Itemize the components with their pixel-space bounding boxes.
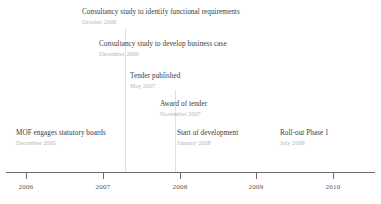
axis-tick-2008 xyxy=(180,172,181,179)
milestone-title: Consultancy study to develop business ca… xyxy=(99,41,227,49)
milestone-date: January 2008 xyxy=(177,140,238,147)
axis-tick-2007 xyxy=(103,172,104,179)
axis-label-2006: 2006 xyxy=(19,183,34,191)
milestone-title: Tender published xyxy=(130,73,180,81)
milestone-title: Award of tender xyxy=(160,101,207,109)
axis-label-2010: 2010 xyxy=(326,183,341,191)
milestone-title: Consultancy study to identify functional… xyxy=(82,9,240,17)
milestone-date: December 2005 xyxy=(16,140,106,147)
axis-label-2007: 2007 xyxy=(96,183,111,191)
axis-label-2009: 2009 xyxy=(249,183,264,191)
milestone: Tender publishedMay 2007 xyxy=(130,73,180,89)
milestone: Award of tenderNovember 2007 xyxy=(160,101,207,117)
milestone: MOF engages statutory boardsDecember 200… xyxy=(16,130,106,146)
milestone-date: October 2006 xyxy=(82,19,240,26)
timeline-axis-line xyxy=(6,172,375,173)
axis-label-2008: 2008 xyxy=(173,183,188,191)
milestone-title: Start of development xyxy=(177,130,238,138)
axis-tick-2006 xyxy=(26,172,27,179)
milestone-date: May 2007 xyxy=(130,83,180,90)
milestone-title: MOF engages statutory boards xyxy=(16,130,106,138)
axis-tick-2010 xyxy=(333,172,334,179)
milestone-date: November 2007 xyxy=(160,111,207,118)
milestone: Roll-out Phase 1July 2009 xyxy=(280,130,329,146)
milestone: Consultancy study to develop business ca… xyxy=(99,41,227,57)
milestone-date: July 2009 xyxy=(280,140,329,147)
timeline-figure: Consultancy study to identify functional… xyxy=(0,0,381,204)
axis-tick-2009 xyxy=(256,172,257,179)
milestone: Consultancy study to identify functional… xyxy=(82,9,240,25)
milestone-date: December 2006 xyxy=(99,51,227,58)
milestone-title: Roll-out Phase 1 xyxy=(280,130,329,138)
milestone: Start of developmentJanuary 2008 xyxy=(177,130,238,146)
